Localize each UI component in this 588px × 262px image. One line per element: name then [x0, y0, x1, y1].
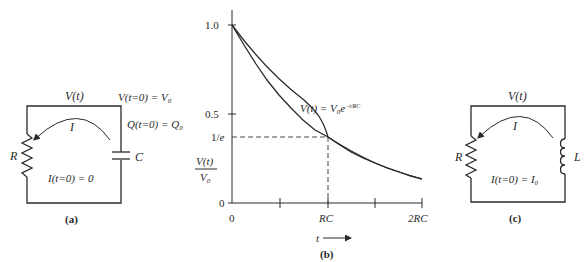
- voltage-label-c: V(t): [508, 89, 527, 103]
- y-label-0: 0: [219, 197, 225, 209]
- initial-current-label-a: I(t=0) = 0: [47, 172, 94, 185]
- inductor-label: L: [573, 150, 581, 164]
- inductor-icon: [561, 139, 566, 174]
- current-label-c: I: [512, 119, 518, 133]
- resistor-icon: [22, 134, 32, 177]
- initial-current-label-c: I(t=0) = I0: [490, 173, 539, 187]
- y-label-1-over-e: 1/e: [211, 131, 225, 143]
- ylabel-denominator: V0: [200, 171, 211, 185]
- x-label-rc: RC: [318, 212, 334, 224]
- y-label-1.0: 1.0: [205, 19, 219, 31]
- ylabel-numerator: V(t): [196, 155, 213, 168]
- figure-canvas: V(t) V(t=0) = V0 Q(t=0) = Q0 I R C I(t=0…: [0, 0, 588, 262]
- initial-voltage-label: V(t=0) = V0: [118, 91, 172, 105]
- panel-b-decay-chart: 1.0 0.5 1/e 0 0 RC 2RC V(t) V0 V(t) = V0…: [195, 10, 428, 261]
- initial-charge-label: Q(t=0) = Q0: [127, 118, 183, 132]
- voltage-label-a: V(t): [65, 89, 84, 103]
- x-label-0: 0: [229, 212, 235, 224]
- panel-a-rc-circuit: V(t) V(t=0) = V0 Q(t=0) = Q0 I R C I(t=0…: [9, 89, 183, 226]
- resistor-label-a: R: [9, 149, 18, 163]
- caption-a: (a): [65, 213, 78, 226]
- panel-c-rl-circuit: V(t) I R L I(t=0) = I0 (c): [454, 89, 581, 225]
- circuit-c-wire: [471, 106, 565, 202]
- y-label-0.5: 0.5: [205, 108, 219, 120]
- decay-equation: V(t) = V0e−t/RC: [300, 102, 361, 116]
- resistor-label-c: R: [454, 150, 463, 164]
- caption-b: (b): [320, 248, 334, 261]
- caption-c: (c): [509, 212, 522, 225]
- x-label-2rc: 2RC: [408, 212, 428, 224]
- xlabel-t: t: [316, 232, 320, 244]
- current-label-a: I: [69, 120, 75, 134]
- circuit-a-wire: [27, 106, 121, 203]
- capacitor-label: C: [135, 150, 144, 164]
- resistor-icon-c: [466, 136, 476, 178]
